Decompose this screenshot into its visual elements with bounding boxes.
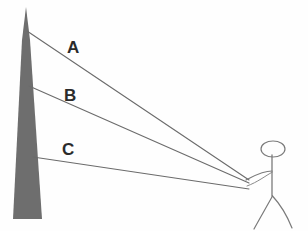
sight-line-label-a: A xyxy=(67,39,79,56)
sight-line-label-c: C xyxy=(62,141,74,158)
arm-line xyxy=(246,171,272,180)
right-leg-line xyxy=(273,196,293,228)
head-icon xyxy=(261,141,285,157)
left-leg-line xyxy=(254,196,273,229)
diagram-canvas: A B C xyxy=(0,0,308,231)
sight-line-c xyxy=(33,157,249,189)
sight-line-b xyxy=(29,86,249,183)
sight-line-a xyxy=(27,31,249,180)
stick-figure-observer xyxy=(246,141,292,229)
sight-line-label-b: B xyxy=(64,87,76,104)
scene-illustration xyxy=(0,0,308,231)
